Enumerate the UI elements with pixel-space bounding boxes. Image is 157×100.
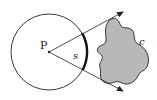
point-label: P <box>40 39 48 52</box>
surface-blob <box>97 18 148 84</box>
arc-label: s <box>73 50 78 61</box>
point-p-dot <box>48 51 50 53</box>
solid-angle-diagram: P s c <box>0 0 157 100</box>
arc-s <box>82 33 87 70</box>
surface-label: c <box>139 36 145 47</box>
